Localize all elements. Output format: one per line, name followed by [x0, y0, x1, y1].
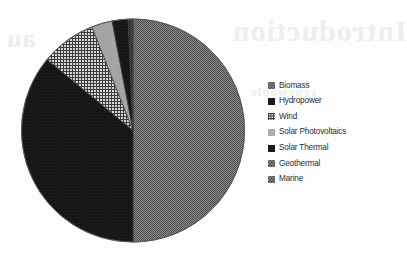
legend-item-wind[interactable]: Wind [268, 109, 376, 125]
legend-item-label: Wind [279, 113, 297, 121]
legend-item-solar-photovoltaics[interactable]: Solar Photovoltaics [268, 125, 376, 141]
legend-item-label: Marine [279, 175, 303, 183]
legend-item-marine[interactable]: Marine [268, 172, 376, 188]
legend-swatch-icon [268, 82, 275, 89]
pie-slice-biomass[interactable] [133, 19, 245, 242]
pie-slices-group [22, 19, 245, 242]
legend-swatch-icon [268, 129, 275, 136]
legend-item-solar-thermal[interactable]: Solar Thermal [268, 140, 376, 156]
legend-swatch-icon [268, 176, 275, 183]
legend-swatch-icon [268, 160, 275, 167]
legend-item-hydropower[interactable]: Hydropower [268, 94, 376, 110]
pie-chart-plot-area [21, 17, 245, 246]
legend-item-label: Solar Thermal [279, 144, 328, 152]
legend-item-label: Hydropower [279, 97, 322, 105]
legend-swatch-icon [268, 145, 275, 152]
legend-swatch-icon [268, 98, 275, 105]
chart-legend: BiomassHydropowerWindSolar Photovoltaics… [268, 78, 376, 187]
legend-item-geothermal[interactable]: Geothermal [268, 156, 376, 172]
legend-item-label: Solar Photovoltaics [279, 128, 346, 136]
legend-item-label: Geothermal [279, 160, 320, 168]
show-through-text: Introduction [232, 14, 407, 48]
pie-chart-svg [21, 17, 245, 246]
legend-swatch-icon [268, 113, 275, 120]
legend-item-label: Biomass [279, 82, 309, 90]
legend-item-biomass[interactable]: Biomass [268, 78, 376, 94]
